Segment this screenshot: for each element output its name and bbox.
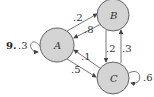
edge-label-c-b: .3 — [122, 43, 132, 54]
node-b-label: B — [109, 10, 117, 21]
problem-number: 9. — [6, 40, 16, 51]
edge-label-c-c: .6 — [143, 72, 153, 83]
edge-label-c-a: .1 — [81, 51, 91, 62]
edge-label-b-c: .2 — [106, 43, 116, 54]
markov-chain-diagram: 9. A B C .3 .2 .8 .2 .3 .1 .5 .6 — [0, 0, 154, 97]
node-c-label: C — [110, 73, 118, 84]
edge-c-c — [129, 72, 140, 84]
node-a-label: A — [53, 40, 61, 51]
edge-label-a-b: .2 — [73, 12, 83, 23]
edge-a-a — [31, 42, 40, 52]
edge-label-a-a: .3 — [18, 40, 28, 51]
edge-label-b-a: .8 — [84, 24, 94, 35]
edge-label-a-c: .5 — [71, 64, 81, 75]
